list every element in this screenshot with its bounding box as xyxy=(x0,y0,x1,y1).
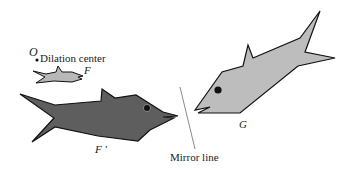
diagram-canvas xyxy=(0,0,351,172)
eye-icon xyxy=(214,86,221,93)
mirror-line xyxy=(180,87,195,149)
eye-icon xyxy=(143,104,150,111)
fish-g xyxy=(195,11,335,113)
fish-g-label: G xyxy=(239,118,247,130)
dilation-center-label: Dilation center xyxy=(40,52,106,64)
origin-label: O xyxy=(29,45,38,60)
fish-f-label: F xyxy=(84,64,91,76)
fish-f xyxy=(33,66,83,83)
mirror-line-label: Mirror line xyxy=(170,151,219,163)
fish-f-prime xyxy=(20,89,178,142)
fish-f-prime-label: F ′ xyxy=(95,143,107,155)
